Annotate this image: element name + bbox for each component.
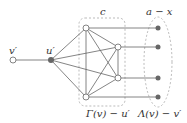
node-v-prime	[10, 57, 16, 63]
label-right-count: a − x	[146, 6, 173, 17]
label-lambda: Λ(v) − v′	[137, 108, 182, 119]
clique-nodes	[83, 25, 121, 100]
neighbor-nodes	[156, 26, 161, 100]
node-u-prime	[48, 57, 54, 63]
edges	[13, 28, 158, 97]
label-u-prime: u′	[46, 45, 55, 56]
label-v-prime: v′	[9, 45, 18, 56]
diagram-svg: v′ u′ c a − x Γ(v) − u′ Λ(v) − v′	[0, 0, 187, 123]
label-clique-size: c	[100, 6, 106, 17]
graph-diagram: v′ u′ c a − x Γ(v) − u′ Λ(v) − v′	[0, 0, 187, 123]
label-gamma: Γ(v) − u′	[85, 108, 131, 119]
